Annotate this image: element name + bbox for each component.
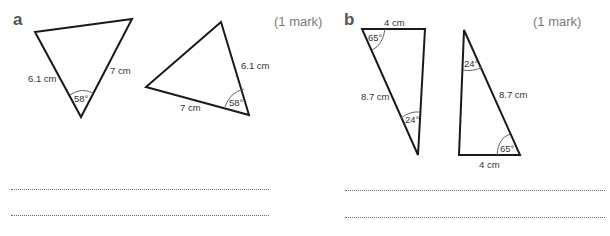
a2-bottom-side-label: 7 cm <box>180 102 201 113</box>
answer-line-a1[interactable] <box>11 189 269 190</box>
b2-top-angle-label: 24° <box>464 58 479 69</box>
triangles-diagram: 6.1 cm 7 cm 58° 6.1 cm 7 cm 58° 4 cm 8.7… <box>0 0 610 236</box>
b1-bottom-angle-label: 24° <box>405 114 420 125</box>
a1-left-side-label: 6.1 cm <box>28 73 57 84</box>
a1-angle-label: 58° <box>74 93 89 104</box>
b1-hypotenuse-label: 8.7 cm <box>361 91 390 102</box>
b2-bottom-angle-label: 65° <box>500 143 515 154</box>
b1-top-angle-label: 65° <box>368 32 383 43</box>
answer-line-a2[interactable] <box>11 215 269 216</box>
b1-top-side-label: 4 cm <box>384 17 405 28</box>
answer-line-b1[interactable] <box>345 190 605 191</box>
a2-right-side-label: 6.1 cm <box>241 60 270 71</box>
a1-right-side-label: 7 cm <box>110 65 131 76</box>
b2-bottom-side-label: 4 cm <box>479 159 500 170</box>
b2-hypotenuse-label: 8.7 cm <box>499 89 528 100</box>
a2-angle-label: 58° <box>229 97 244 108</box>
answer-line-b2[interactable] <box>345 217 605 218</box>
